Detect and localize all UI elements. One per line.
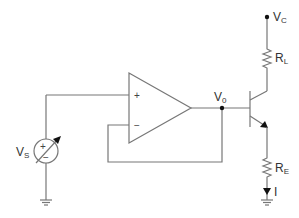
node-vc — [265, 15, 269, 19]
node-vo — [220, 106, 224, 110]
current-arrow-icon — [263, 188, 271, 195]
opamp-minus-sign: − — [134, 120, 140, 131]
circuit-diagram: + − VS + − V0 VC RL I RE — [0, 0, 299, 218]
source-plus-sign: + — [40, 141, 46, 152]
opamp: + − — [129, 73, 191, 143]
label-vs: VS — [16, 145, 29, 160]
voltage-source-vs: + − — [34, 95, 61, 200]
feedback-wire — [108, 108, 222, 162]
label-re: RE — [275, 161, 289, 176]
ground-icon — [40, 200, 52, 205]
resistor-rl — [263, 18, 271, 91]
opamp-plus-sign: + — [134, 90, 140, 101]
ground-icon — [261, 200, 273, 205]
source-minus-sign: − — [43, 152, 49, 163]
label-rl: RL — [275, 51, 289, 66]
label-vc: VC — [273, 10, 287, 25]
npn-transistor — [250, 91, 268, 128]
label-current: I — [274, 185, 277, 199]
label-vo: V0 — [214, 90, 227, 105]
